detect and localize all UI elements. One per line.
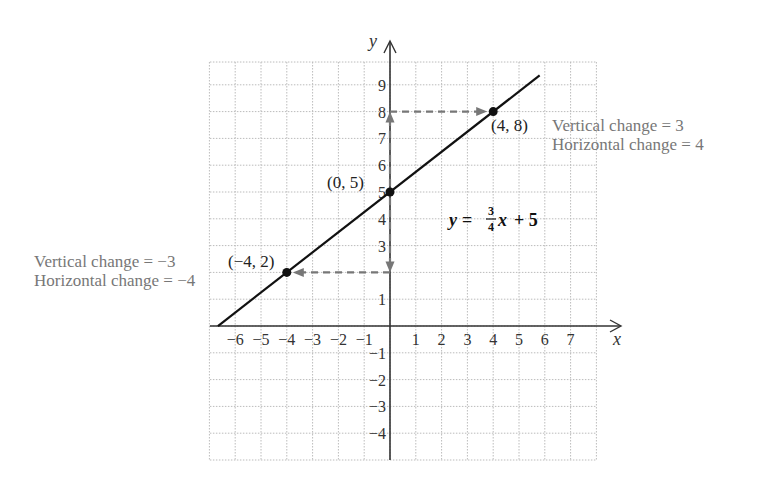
y-tick-label: −1: [369, 345, 386, 362]
equation-lhs: y=: [447, 210, 472, 230]
point-label-0-5: (0, 5): [327, 173, 364, 192]
right-horizontal-change: Horizontal change = 4: [552, 135, 704, 154]
y-tick-label: −2: [369, 372, 386, 389]
equation-variable: x: [497, 210, 507, 230]
y-tick-label: −4: [369, 425, 386, 442]
x-tick-label: −2: [330, 331, 347, 348]
right-vertical-change: Vertical change = 3: [552, 116, 684, 135]
x-tick-label: −4: [278, 331, 295, 348]
left-vertical-change: Vertical change = −3: [34, 252, 175, 271]
x-axis-label: x: [612, 329, 621, 349]
x-tick-label: 3: [463, 331, 471, 348]
y-tick-label: 8: [378, 104, 386, 121]
y-tick-label: 6: [378, 157, 386, 174]
coordinate-plane: −6−5−4−3−2−11234567 98765431−1−2−3−4 x y…: [0, 0, 770, 480]
x-tick-label: 2: [438, 331, 446, 348]
x-tick-label: −5: [252, 331, 269, 348]
y-axis-label: y: [367, 31, 377, 51]
y-tick-label: −3: [369, 398, 386, 415]
slope-diagram: −6−5−4−3−2−11234567 98765431−1−2−3−4 x y…: [0, 0, 770, 480]
x-tick-label: −6: [227, 331, 244, 348]
left-horizontal-change: Horizontal change = −4: [34, 271, 196, 290]
equation-label: y= 3 4 x + 5: [447, 204, 538, 234]
x-tick-label: 4: [489, 331, 497, 348]
arrowhead-icon: [386, 261, 395, 272]
point-label-4-8: (4, 8): [491, 116, 528, 135]
x-tick-label: 7: [567, 331, 575, 348]
y-tick-label: 9: [378, 77, 386, 94]
equation-numerator: 3: [488, 204, 494, 218]
arrowhead-icon: [476, 107, 487, 116]
y-tick-label: 4: [378, 211, 386, 228]
point-label-neg4-2: (−4, 2): [228, 252, 274, 271]
point-0-5: [386, 188, 395, 197]
x-tick-label: 1: [412, 331, 420, 348]
x-tick-labels: −6−5−4−3−2−11234567: [227, 331, 575, 348]
x-tick-label: −3: [304, 331, 321, 348]
point-neg4-2: [282, 268, 291, 277]
equation-denominator: 4: [488, 220, 494, 234]
arrowhead-icon: [386, 112, 395, 123]
arrowhead-icon: [293, 268, 304, 277]
x-tick-label: 6: [541, 331, 549, 348]
y-tick-labels: 98765431−1−2−3−4: [369, 77, 386, 442]
y-tick-label: 3: [378, 238, 386, 255]
x-tick-label: 5: [515, 331, 523, 348]
y-tick-label: 1: [378, 291, 386, 308]
equation-rest: + 5: [514, 210, 538, 230]
point-4-8: [489, 107, 498, 116]
y-tick-label: 7: [378, 130, 386, 147]
